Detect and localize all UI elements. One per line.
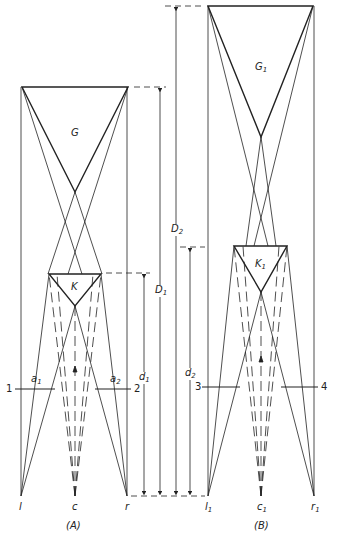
label-l: l — [19, 502, 22, 512]
label-g: G — [71, 128, 79, 138]
label-a2: a2 — [110, 374, 121, 386]
dimension-lines — [106, 6, 205, 496]
label-g1: G1 — [255, 62, 267, 74]
label-plane-2: 2 — [134, 384, 140, 394]
stereo-geometry-diagram — [0, 0, 340, 536]
label-k: K — [71, 282, 78, 292]
label-plane-3: 3 — [195, 382, 201, 392]
triangle-g — [22, 87, 128, 192]
panel-b — [202, 6, 318, 496]
label-D1: D1 — [155, 285, 167, 297]
label-D2: D2 — [171, 224, 183, 236]
caption-a: (A) — [66, 520, 81, 531]
label-a1: a1 — [31, 374, 42, 386]
label-l1: l1 — [205, 502, 212, 514]
label-k1: K1 — [255, 259, 266, 271]
label-r1: r1 — [311, 502, 320, 514]
label-plane-1: 1 — [6, 384, 12, 394]
label-d1: d1 — [139, 372, 150, 384]
label-plane-4: 4 — [321, 382, 327, 392]
caption-b: (B) — [254, 520, 269, 531]
label-c1: c1 — [257, 502, 267, 514]
label-c: c — [72, 502, 78, 512]
label-d2: d2 — [185, 368, 196, 380]
label-r: r — [125, 502, 129, 512]
